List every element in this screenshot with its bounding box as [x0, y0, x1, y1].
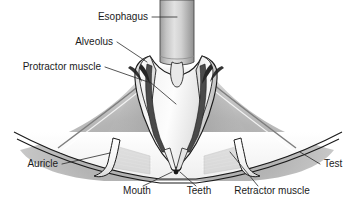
- label-retractor-muscle: Retractor muscle: [234, 185, 310, 196]
- label-teeth: Teeth: [187, 185, 211, 196]
- label-auricle: Auricle: [27, 158, 58, 169]
- esophagus-tube: [160, 0, 194, 65]
- anatomical-figure: Esophagus Alveolus Protractor muscle Aur…: [0, 0, 354, 207]
- label-mouth: Mouth: [123, 185, 151, 196]
- label-esophagus: Esophagus: [98, 11, 148, 22]
- label-protractor-muscle: Protractor muscle: [23, 61, 102, 72]
- label-test: Test: [324, 158, 343, 169]
- label-alveolus: Alveolus: [75, 36, 113, 47]
